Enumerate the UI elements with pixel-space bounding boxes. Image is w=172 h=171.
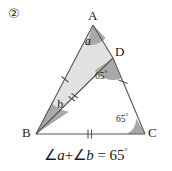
vertex-label-a: A [88,9,97,22]
angle-value-d-degree: ° [105,69,108,77]
angle-label-b: b [56,98,63,111]
vertex-label-c: C [148,126,157,139]
vertex-label-b: B [22,126,31,139]
angle-value-d: 65° [95,70,107,82]
equation-rhs-degree: ° [125,147,128,156]
angle-label-a: a [85,35,91,47]
equation-angle-symbol-1: ∠ [44,147,57,163]
equation-caption: ∠a+∠b = 65° [0,146,172,164]
angle-value-d-number: 65 [95,71,105,81]
geometry-figure: ② A B C D a b 65° 65° ∠a+∠b = 65° [0,0,172,171]
equation-angle-symbol-2: ∠ [73,147,86,163]
equation-var-a: a [57,147,65,163]
vertex-label-d: D [115,45,124,58]
equation-rhs-value: 65 [110,147,125,163]
item-number: ② [8,7,20,20]
equation-plus: + [65,147,73,163]
equation-var-b: b [86,147,94,163]
angle-value-c-number: 65 [116,114,126,124]
equation-equals: = [97,147,105,163]
angle-value-c: 65° [116,113,128,125]
angle-value-c-degree: ° [126,112,129,120]
